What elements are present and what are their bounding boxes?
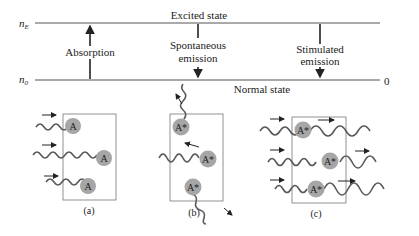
atom-label: A*	[310, 184, 322, 195]
photon-wave	[310, 126, 370, 136]
photon-wave	[33, 152, 97, 158]
atom-label: A*	[297, 125, 309, 136]
normal-level: n0 Normal state 0	[19, 73, 390, 95]
absorption-label: Absorption	[65, 46, 115, 58]
atom-label: A*	[187, 182, 199, 193]
energy-diagram: nE Excited state n0 Normal state 0 Absor…	[0, 0, 419, 236]
n-e-label: nE	[19, 17, 30, 31]
arrow-down-right-icon	[224, 208, 232, 215]
panel-c: A* A* A* (c)	[260, 117, 384, 220]
stimulated-emission-transition: Stimulated emission	[296, 24, 344, 77]
spontaneous-emission-transition: Spontaneous emission	[170, 24, 226, 77]
photon-wave	[324, 183, 384, 195]
atom-label: A*	[175, 122, 187, 133]
normal-state-label: Normal state	[234, 83, 291, 95]
photon-wave	[159, 154, 199, 162]
stimulated-label-line1: Stimulated	[296, 43, 344, 55]
panel-a-caption: (a)	[83, 205, 94, 217]
arrow-left-icon	[185, 143, 199, 147]
panel-a: A A A (a)	[33, 114, 116, 217]
photon-wave	[260, 127, 300, 135]
panel-b-caption: (b)	[188, 207, 200, 219]
atom-label: A	[84, 181, 92, 192]
spontaneous-label-line2: emission	[178, 52, 218, 64]
stimulated-label-line2: emission	[300, 55, 340, 67]
photon-wave	[275, 186, 307, 193]
atom-label: A	[100, 153, 108, 164]
spontaneous-label-line1: Spontaneous	[170, 39, 226, 51]
photon-wave	[340, 156, 376, 168]
n-0-label: n0	[19, 73, 29, 87]
atom-label: A	[69, 121, 77, 132]
panel-c-caption: (c)	[310, 208, 321, 220]
atom-label: A*	[202, 154, 214, 165]
excited-level: nE Excited state	[19, 9, 380, 31]
absorption-transition: Absorption	[65, 26, 115, 79]
panel-b: A* A* A* (b)	[159, 84, 232, 224]
excited-state-label: Excited state	[171, 9, 228, 21]
zero-label: 0	[384, 75, 390, 87]
arrow-up-left-icon	[176, 94, 182, 104]
atom-label: A*	[324, 156, 336, 167]
photon-wave	[46, 179, 86, 185]
